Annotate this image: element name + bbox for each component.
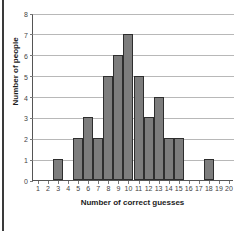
x-axis-tick bbox=[229, 181, 230, 184]
y-axis-tick bbox=[30, 139, 33, 140]
x-axis-tick-label: 10 bbox=[125, 185, 133, 192]
x-axis-tick-label: 5 bbox=[76, 185, 80, 192]
histogram-bar bbox=[93, 138, 103, 180]
x-axis-title: Number of correct guesses bbox=[32, 199, 233, 208]
histogram-bar bbox=[164, 138, 174, 180]
histogram-bar bbox=[103, 76, 113, 180]
x-axis-tick bbox=[58, 181, 59, 184]
histogram-bar bbox=[83, 117, 93, 180]
x-axis-tick-label: 13 bbox=[155, 185, 163, 192]
x-axis-tick-label: 9 bbox=[116, 185, 120, 192]
x-axis-tick-label: 16 bbox=[185, 185, 193, 192]
histogram-bar bbox=[53, 159, 63, 180]
x-axis-tick bbox=[108, 181, 109, 184]
histogram-bar bbox=[154, 97, 164, 181]
gridline-horizontal bbox=[33, 14, 234, 15]
x-axis-tick-label: 2 bbox=[46, 185, 50, 192]
x-axis-tick-label: 20 bbox=[225, 185, 233, 192]
x-axis-tick-label: 18 bbox=[205, 185, 213, 192]
histogram-bar bbox=[144, 117, 154, 180]
y-axis-title: Number of people bbox=[12, 16, 21, 126]
histogram-bar bbox=[174, 138, 184, 180]
x-axis-tick-label: 7 bbox=[96, 185, 100, 192]
x-axis-tick bbox=[159, 181, 160, 184]
y-axis-tick bbox=[30, 160, 33, 161]
gridline-horizontal bbox=[33, 55, 234, 56]
x-axis-tick bbox=[38, 181, 39, 184]
histogram-bar bbox=[123, 34, 133, 180]
x-axis-tick bbox=[48, 181, 49, 184]
x-axis-tick bbox=[78, 181, 79, 184]
y-axis-tick-label: 5 bbox=[24, 73, 28, 80]
page-edge-rule bbox=[2, 0, 4, 231]
x-axis-tick-label: 15 bbox=[175, 185, 183, 192]
y-axis-tick-label: 3 bbox=[24, 115, 28, 122]
x-axis-tick-label: 11 bbox=[135, 185, 142, 192]
y-axis-tick-label: 2 bbox=[24, 136, 28, 143]
y-axis-tick-label: 1 bbox=[24, 157, 28, 164]
x-axis-tick bbox=[169, 181, 170, 184]
plot-area: 0123456781234567891011121314151617181920 bbox=[32, 14, 233, 181]
x-axis-tick bbox=[128, 181, 129, 184]
histogram-bar bbox=[134, 76, 144, 180]
x-axis-tick-label: 1 bbox=[36, 185, 40, 192]
x-axis-tick bbox=[189, 181, 190, 184]
y-axis-tick bbox=[30, 55, 33, 56]
x-axis-tick-label: 17 bbox=[195, 185, 203, 192]
y-axis-tick-label: 4 bbox=[24, 94, 28, 101]
y-axis-tick-label: 8 bbox=[24, 11, 28, 18]
x-axis-tick bbox=[118, 181, 119, 184]
x-axis-tick bbox=[179, 181, 180, 184]
y-axis-tick bbox=[30, 97, 33, 98]
x-axis-tick bbox=[149, 181, 150, 184]
x-axis-tick-label: 14 bbox=[165, 185, 173, 192]
y-axis-tick-label: 0 bbox=[24, 178, 28, 185]
x-axis-tick bbox=[88, 181, 89, 184]
x-axis-tick-label: 3 bbox=[56, 185, 60, 192]
y-axis-tick bbox=[30, 181, 33, 182]
x-axis-tick-label: 8 bbox=[106, 185, 110, 192]
x-axis-tick bbox=[209, 181, 210, 184]
x-axis-tick bbox=[219, 181, 220, 184]
x-axis-tick bbox=[139, 181, 140, 184]
y-axis-tick bbox=[30, 76, 33, 77]
x-axis-tick-label: 6 bbox=[86, 185, 90, 192]
histogram-bar bbox=[204, 159, 214, 180]
histogram-figure: 0123456781234567891011121314151617181920… bbox=[0, 0, 251, 231]
x-axis-tick bbox=[68, 181, 69, 184]
x-axis-tick-label: 12 bbox=[145, 185, 153, 192]
histogram-bar bbox=[73, 138, 83, 180]
y-axis-tick-label: 7 bbox=[24, 31, 28, 38]
histogram-bar bbox=[113, 55, 123, 180]
x-axis-tick-label: 4 bbox=[66, 185, 70, 192]
x-axis-tick bbox=[199, 181, 200, 184]
gridline-horizontal bbox=[33, 34, 234, 35]
x-axis-tick bbox=[98, 181, 99, 184]
x-axis-tick-label: 19 bbox=[215, 185, 223, 192]
y-axis-tick bbox=[30, 34, 33, 35]
y-axis-tick bbox=[30, 118, 33, 119]
y-axis-tick-label: 6 bbox=[24, 52, 28, 59]
y-axis-tick bbox=[30, 14, 33, 15]
